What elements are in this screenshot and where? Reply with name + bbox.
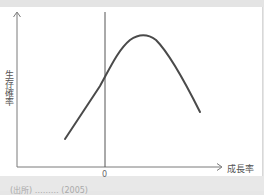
zero-tick-label: 0 — [102, 170, 107, 179]
y-axis-label: 生存確率 — [3, 70, 14, 106]
survival-curve — [65, 35, 200, 139]
survival-growth-diagram — [0, 0, 264, 191]
x-axis-label: 成長率 — [227, 162, 254, 175]
source-caption: (出所) ……… (2005) — [10, 184, 88, 191]
